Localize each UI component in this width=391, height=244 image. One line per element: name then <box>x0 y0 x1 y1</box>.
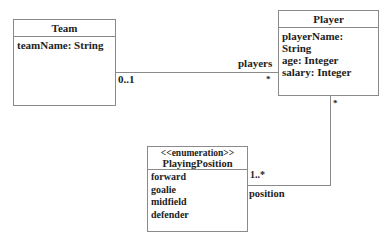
class-team-name: Team <box>14 20 115 37</box>
role-position: position <box>249 188 285 199</box>
class-team-attributes: teamName: String <box>14 37 115 53</box>
association-team-player[interactable] <box>116 72 278 73</box>
enum-literal: midfield <box>151 196 244 209</box>
multiplicity-players: * <box>266 74 271 84</box>
class-team[interactable]: Team teamName: String <box>13 19 116 106</box>
class-player-name: Player <box>279 11 378 28</box>
class-player-attributes: playerName: String age: Integer salary: … <box>279 28 378 80</box>
enum-stereotype: <<enumeration>> <box>148 148 247 158</box>
enum-literals: forward goalie midfield defender <box>148 170 247 223</box>
attribute: age: Integer <box>282 54 375 66</box>
enum-name: PlayingPosition <box>148 158 247 169</box>
association-player-position-horizontal[interactable] <box>248 185 331 186</box>
association-player-position-vertical[interactable] <box>330 96 331 186</box>
enum-header: <<enumeration>> PlayingPosition <box>148 147 247 170</box>
role-players: players <box>238 57 272 69</box>
attribute: teamName: String <box>17 39 112 51</box>
multiplicity-position: 1..* <box>250 169 265 180</box>
enum-literal: forward <box>151 171 244 184</box>
multiplicity-player-end: * <box>333 98 338 108</box>
multiplicity-team: 0..1 <box>118 73 135 85</box>
class-player[interactable]: Player playerName: String age: Integer s… <box>278 10 379 96</box>
enum-playing-position[interactable]: <<enumeration>> PlayingPosition forward … <box>147 146 248 232</box>
attribute: salary: Integer <box>282 66 375 78</box>
enum-literal: defender <box>151 209 244 222</box>
attribute: playerName: String <box>282 30 375 54</box>
enum-literal: goalie <box>151 184 244 197</box>
